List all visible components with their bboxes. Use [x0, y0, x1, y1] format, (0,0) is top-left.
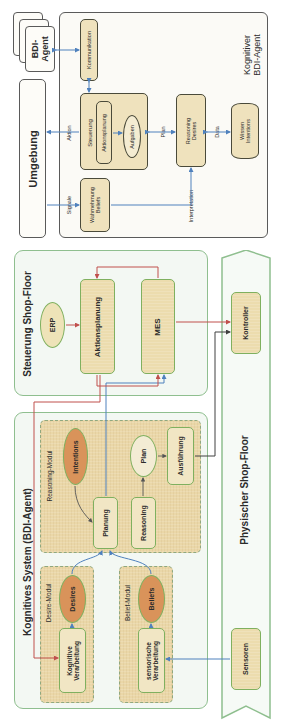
aktionsplanung-label: Aktionsplanung	[93, 296, 102, 356]
belief-modul-title-wrap: Belief-Modul	[122, 573, 134, 633]
intentions-ellipse: Intentions	[63, 428, 88, 485]
reasoning-desires-label: Reasoning Desires	[185, 117, 198, 143]
reasoning-box: Reasoning	[131, 497, 156, 549]
kognitives-system-title-wrap: Kognitives System (BDI-Agent)	[17, 413, 39, 710]
reasoning-desires-box: Reasoning Desires	[176, 94, 206, 167]
data-label-wrap: Data	[212, 122, 222, 142]
steuerung-label: Steuerung	[87, 119, 94, 147]
frame-title: Kognitiver BDI-Agent	[242, 34, 263, 76]
physischer-shop-floor-title: Physischer Shop-Floor	[239, 435, 251, 544]
kontroller-box: Kontroller	[231, 292, 261, 354]
wahrnehmung-label: Wahrnehmung Beliefs	[89, 187, 102, 223]
plan-ellipse-label: Plan	[139, 449, 147, 464]
desire-modul-title: Desire-Modul	[45, 584, 52, 623]
aufgaben-label: Aufgaben	[129, 125, 135, 149]
desires-label: Desires	[68, 586, 76, 611]
aktionsplanung-inner-label: Aktionsplanung	[101, 114, 107, 152]
sensoren-label: Sensoren	[242, 643, 250, 675]
kognitive-verarbeitung-label: Kognitive Verarbeitung	[65, 641, 80, 681]
plan-label: Plan	[160, 126, 166, 137]
frame-title-wrap: Kognitiver BDI-Agent	[238, 25, 266, 85]
steuerung-label-wrap: Steuerung	[83, 94, 97, 171]
belief-modul-title: Belief-Modul	[124, 585, 131, 621]
signale-label-wrap: Signale	[64, 190, 74, 220]
wahrnehmung-box: Wahrnehmung Beliefs	[80, 178, 110, 232]
ausfuehrung-box: Ausführung	[167, 427, 194, 485]
aufgaben-ellipse: Aufgaben	[123, 115, 141, 158]
erp-ellipse: ERP	[40, 302, 65, 348]
sensorische-verarbeitung-box: sensorische Verarbeitung	[138, 628, 165, 693]
steuerung-shop-floor-title-wrap: Steuerung Shop-Floor	[17, 251, 39, 397]
physischer-shop-floor-title-wrap: Physischer Shop-Floor	[235, 420, 255, 560]
aktion-label-wrap: Aktion	[64, 118, 74, 148]
ausfuehrung-label: Ausführung	[176, 436, 184, 476]
data-label: Data	[214, 126, 220, 138]
bdi-agent-card: BDI- Agent	[25, 26, 55, 72]
beliefs-ellipse: Beliefs	[138, 575, 165, 623]
interpretation-label-wrap: Interpretation	[186, 178, 196, 234]
erp-label: ERP	[48, 318, 56, 332]
kognitives-system-title: Kognitives System (BDI-Agent)	[22, 488, 34, 636]
mes-label: MES	[153, 318, 162, 335]
plan-label-wrap: Plan	[158, 122, 168, 142]
reasoning-modul-title: Reasoning-Modul	[46, 451, 53, 502]
kommunikation-box: Kommunikation	[80, 19, 98, 81]
sensoren-box: Sensoren	[231, 628, 261, 690]
reasoning-label: Reasoning	[139, 505, 147, 541]
aktionsplanung-box: Aktionsplanung	[80, 279, 115, 374]
planung-label: Planung	[101, 509, 109, 537]
signale-label: Signale	[66, 196, 72, 214]
aktion-label: Aktion	[66, 125, 72, 140]
kognitive-verarbeitung-box: Kognitive Verarbeitung	[59, 628, 86, 693]
interpretation-label: Interpretation	[188, 190, 194, 222]
wissen-intentions-store: Wissen Intentions	[231, 103, 259, 159]
desire-modul-title-wrap: Desire-Modul	[43, 573, 55, 633]
kontroller-label: Kontroller	[242, 306, 250, 339]
kommunikation-label: Kommunikation	[86, 31, 92, 69]
mes-box: MES	[141, 279, 175, 374]
desires-ellipse: Desires	[59, 575, 86, 623]
steuerung-shop-floor-title: Steuerung Shop-Floor	[22, 271, 34, 377]
beliefs-label: Beliefs	[147, 588, 155, 611]
umgebung-label: Umgebung	[26, 130, 39, 187]
plan-ellipse: Plan	[130, 435, 157, 477]
reasoning-modul-title-wrap: Reasoning-Modul	[44, 441, 56, 511]
intentions-label: Intentions	[71, 440, 79, 473]
aktionsplanung-inner-box: Aktionsplanung	[96, 101, 112, 164]
sensorische-verarbeitung-label: sensorische Verarbeitung	[144, 641, 159, 681]
planung-box: Planung	[93, 497, 118, 549]
wissen-intentions-label: Wissen Intentions	[239, 119, 252, 143]
umgebung-box: Umgebung	[19, 79, 46, 238]
bdi-agent-label: BDI- Agent	[30, 36, 51, 62]
